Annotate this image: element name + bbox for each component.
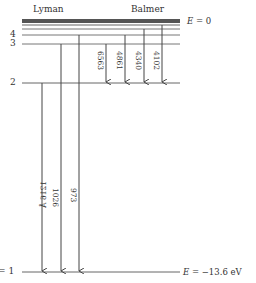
energy-zero-value: = 0 bbox=[196, 16, 211, 26]
wavelength-label-973: 973 bbox=[70, 188, 78, 202]
level-label-n3: 3 bbox=[10, 39, 16, 48]
energy-ground-label: E = −13.6 eV bbox=[183, 268, 242, 277]
balmer-series-label: Balmer bbox=[131, 5, 164, 14]
wavelength-label-4102: 4102 bbox=[153, 51, 161, 70]
wavelength-label-1216: 1216 Å bbox=[40, 181, 48, 208]
convergence-lines bbox=[22, 19, 180, 29]
wavelength-label-4340: 4340 bbox=[135, 51, 143, 70]
energy-level-diagram bbox=[0, 0, 256, 283]
level-label-n2: 2 bbox=[10, 78, 16, 87]
energy-symbol: E bbox=[183, 267, 189, 277]
wavelength-label-4861: 4861 bbox=[116, 51, 124, 70]
energy-ground-value: = −13.6 eV bbox=[192, 267, 242, 277]
energy-zero-label: E = 0 bbox=[187, 17, 211, 26]
wavelength-label-6563: 6563 bbox=[97, 51, 105, 70]
lyman-series-label: Lyman bbox=[33, 5, 64, 14]
wavelength-label-1026: 1026 bbox=[52, 188, 60, 207]
energy-symbol: E bbox=[187, 16, 193, 26]
level-label-n1: = 1 bbox=[0, 267, 14, 276]
